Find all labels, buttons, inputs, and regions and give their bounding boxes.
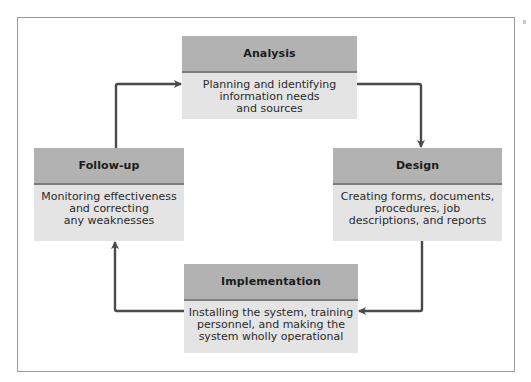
stage-implementation: Implementation Installing the system, tr…: [184, 264, 358, 353]
stage-title: Implementation: [184, 264, 358, 301]
stage-title: Follow-up: [34, 148, 184, 185]
stage-description: Planning and identifying information nee…: [182, 73, 357, 115]
stage-analysis: Analysis Planning and identifying inform…: [182, 36, 357, 119]
stage-description: Monitoring effectiveness and correcting …: [34, 185, 184, 227]
stage-description: Creating forms, documents, procedures, j…: [333, 185, 502, 227]
arrow-followup-to-analysis: [116, 84, 181, 148]
stage-title: Design: [333, 148, 502, 185]
arrow-design-to-implementation: [359, 241, 422, 311]
stage-follow-up: Follow-up Monitoring effectiveness and c…: [34, 148, 184, 241]
stage-description: Installing the system, training personne…: [184, 301, 358, 343]
stage-title: Analysis: [182, 36, 357, 73]
arrow-analysis-to-design: [357, 84, 421, 147]
stage-design: Design Creating forms, documents, proced…: [333, 148, 502, 241]
cycle-diagram: Analysis Planning and identifying inform…: [0, 0, 531, 382]
arrow-implementation-to-followup: [115, 242, 184, 311]
